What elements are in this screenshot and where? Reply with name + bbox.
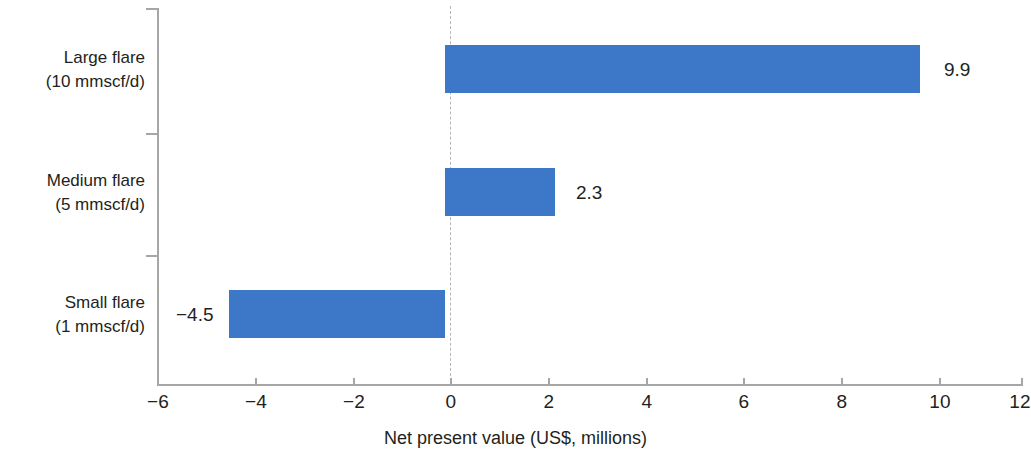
- category-label-large-flare: Large flare (10 mmscf/d): [46, 46, 145, 94]
- x-axis-tick-label: 4: [642, 391, 653, 413]
- x-axis-tick-label: −4: [245, 391, 267, 413]
- x-axis-title: Net present value (US$, millions): [384, 428, 647, 449]
- bar-small-flare: [229, 290, 445, 338]
- x-axis-tick: [255, 378, 257, 386]
- x-axis-tick: [450, 378, 452, 386]
- x-axis-tick-label: 0: [446, 391, 457, 413]
- x-axis-tick-label: 6: [739, 391, 750, 413]
- x-axis-tick-label: 2: [544, 391, 555, 413]
- bar-large-flare: [445, 45, 920, 93]
- x-axis-tick-label: 12: [1009, 391, 1031, 413]
- x-axis-tick: [1021, 378, 1023, 386]
- y-axis-tick: [146, 133, 158, 135]
- y-axis-tick: [146, 8, 158, 10]
- bar-chart: 9.9 2.3 −4.5 Large flare (10 mmscf/d) Me…: [0, 0, 1031, 457]
- x-axis-tick: [157, 378, 159, 386]
- x-axis-tick-label: −2: [343, 391, 365, 413]
- category-label-line2: (1 mmscf/d): [55, 315, 145, 339]
- x-axis-title-container: Net present value (US$, millions): [0, 428, 1031, 449]
- x-axis-tick: [548, 378, 550, 386]
- category-label-line1: Large flare: [64, 48, 145, 67]
- x-axis-line: [157, 384, 1022, 386]
- category-label-line2: (10 mmscf/d): [46, 70, 145, 94]
- bar-value-label-small-flare: −4.5: [176, 305, 214, 324]
- x-axis-tick-label: 8: [837, 391, 848, 413]
- bar-value-label-large-flare: 9.9: [944, 60, 970, 79]
- x-axis-tick: [841, 378, 843, 386]
- x-axis-tick: [743, 378, 745, 386]
- category-label-medium-flare: Medium flare (5 mmscf/d): [47, 169, 145, 217]
- x-axis-tick: [646, 378, 648, 386]
- category-label-line2: (5 mmscf/d): [47, 193, 145, 217]
- x-axis-tick: [939, 378, 941, 386]
- x-axis-tick-label: −6: [147, 391, 169, 413]
- category-label-line1: Small flare: [65, 293, 145, 312]
- x-axis-tick: [353, 378, 355, 386]
- y-axis-line: [157, 8, 159, 386]
- bar-medium-flare: [445, 168, 555, 216]
- bar-value-label-medium-flare: 2.3: [576, 183, 602, 202]
- x-axis-tick-label: 10: [929, 391, 951, 413]
- y-axis-tick: [146, 255, 158, 257]
- category-label-small-flare: Small flare (1 mmscf/d): [55, 291, 145, 339]
- category-label-line1: Medium flare: [47, 171, 145, 190]
